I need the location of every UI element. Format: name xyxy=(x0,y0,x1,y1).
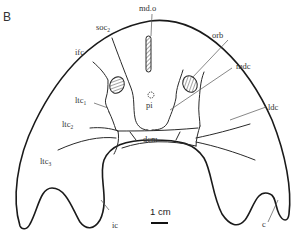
label-ifc: ifc xyxy=(75,47,84,57)
leader-orb xyxy=(192,40,228,78)
left-infraorbital-canal xyxy=(93,62,109,112)
label-mdc: mdc xyxy=(236,61,251,71)
scale-bar-label: 1 cm xyxy=(150,206,171,217)
ltc2-line xyxy=(90,128,118,131)
label-ltc3: ltc3 xyxy=(40,156,52,167)
left-orbit xyxy=(107,74,127,95)
leader-c xyxy=(268,200,278,222)
pineal-foramen xyxy=(148,92,154,98)
label-ldc: ldc xyxy=(268,102,279,112)
label-dcm: dcm xyxy=(143,134,158,144)
dcm-left-tick xyxy=(130,132,136,140)
label-c: c xyxy=(262,219,266,229)
label-md-o: md.o xyxy=(139,3,156,13)
right-lateral-line xyxy=(196,142,255,160)
right-ldc-line xyxy=(196,124,250,138)
leader-md-o xyxy=(151,14,152,36)
ltc3-line xyxy=(58,138,116,151)
label-orb: orb xyxy=(212,30,223,40)
label-ic: ic xyxy=(112,220,118,230)
anatomical-diagram: B md.o soc2 ifc orb mdc pi ltc1 ltc2 ltc… xyxy=(0,0,296,236)
leader-mdc xyxy=(170,68,232,110)
label-soc2: soc2 xyxy=(96,22,110,33)
panel-label: B xyxy=(3,10,11,24)
right-supraorbital-canal xyxy=(152,70,183,130)
leader-ic xyxy=(101,200,109,210)
leader-ldc xyxy=(230,107,266,120)
median-occipital xyxy=(146,36,151,72)
right-canal-upper xyxy=(199,72,204,126)
label-pi: pi xyxy=(146,100,153,110)
label-ltc1: ltc1 xyxy=(75,95,87,106)
label-ltc2: ltc2 xyxy=(62,119,74,130)
dcm-right-tick xyxy=(176,132,180,140)
